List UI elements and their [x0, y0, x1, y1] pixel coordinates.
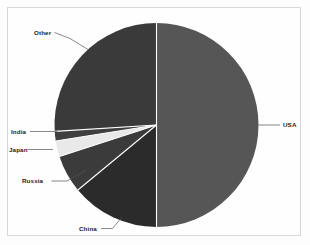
pie-label-india: India: [11, 128, 27, 135]
pie-label-china: China: [79, 225, 97, 232]
pie-label-russia: Russia: [22, 177, 44, 184]
pie-slice-usa[interactable]: [157, 23, 259, 227]
pie-label-japan: Japan: [9, 146, 28, 153]
pie-chart-page: Other India Japan Russia China USA: [0, 0, 310, 245]
pie-slice-other[interactable]: [54, 23, 156, 131]
pie-chart-figure: Other India Japan Russia China USA: [0, 0, 310, 245]
leader-line-other: [55, 33, 89, 50]
pie-label-usa: USA: [283, 121, 297, 128]
pie-label-other: Other: [34, 29, 52, 36]
